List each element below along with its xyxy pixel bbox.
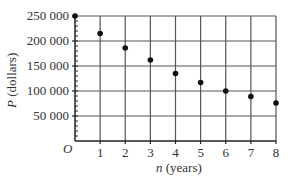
y-tick-label: 100 000 <box>27 83 69 98</box>
scatter-chart: 50 000100 000150 000200 000250 000 12345… <box>0 0 291 184</box>
data-point <box>198 80 204 86</box>
data-point <box>148 57 154 63</box>
x-tick-label: 8 <box>273 145 280 160</box>
x-tick-label: 5 <box>197 145 204 160</box>
x-tick-label: 2 <box>122 145 129 160</box>
x-tick-label: 1 <box>97 145 104 160</box>
origin-label: O <box>63 141 73 156</box>
x-tick-label: 6 <box>223 145 230 160</box>
x-tick-label: 4 <box>172 145 179 160</box>
x-axis-ticks: 12345678 <box>97 141 279 160</box>
y-axis-ticks: 50 000100 000150 000200 000250 000 <box>27 8 78 136</box>
data-point <box>122 45 128 51</box>
x-tick-label: 3 <box>147 145 154 160</box>
x-axis-label: n (years) <box>156 160 202 175</box>
y-tick-label: 150 000 <box>27 58 69 73</box>
y-tick-label: 250 000 <box>27 8 69 23</box>
data-point <box>97 31 103 37</box>
data-point <box>273 100 279 106</box>
data-point <box>173 71 179 77</box>
grid-lines <box>75 16 276 141</box>
data-point <box>248 94 254 100</box>
data-point <box>223 88 229 94</box>
y-tick-label: 200 000 <box>27 33 69 48</box>
data-point <box>72 13 78 19</box>
x-tick-label: 7 <box>248 145 255 160</box>
y-axis-label: P (dollars) <box>4 53 19 109</box>
y-tick-label: 50 000 <box>33 108 69 123</box>
